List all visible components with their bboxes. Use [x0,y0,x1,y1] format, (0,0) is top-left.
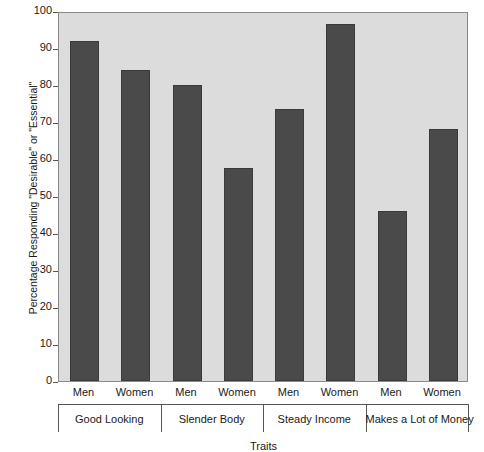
bar [224,168,253,381]
bar [275,109,304,381]
y-tick-label: 0 [24,375,52,386]
y-tick-label: 50 [24,190,52,201]
x-tick-label-gender: Women [412,386,472,398]
y-tick-mark [53,345,58,346]
y-tick-mark [53,86,58,87]
y-tick-label: 40 [24,227,52,238]
y-tick-mark [53,308,58,309]
y-tick-label: 90 [24,42,52,53]
y-tick-mark [53,123,58,124]
bar [121,70,150,381]
group-label: Makes a Lot of Money [366,413,469,425]
y-tick-label: 100 [24,5,52,16]
x-axis-title: Traits [58,440,469,452]
group-label: Slender Body [161,413,264,425]
bar [326,24,355,381]
y-tick-label: 70 [24,116,52,127]
y-tick-mark [53,197,58,198]
y-tick-mark [53,234,58,235]
y-tick-mark [53,271,58,272]
y-tick-label: 20 [24,301,52,312]
y-tick-label: 30 [24,264,52,275]
y-tick-mark [53,49,58,50]
y-axis-ticks: 1009080706050403020100 [22,0,52,452]
bar-chart-figure: Percentage Responding "Desirable" or "Es… [0,0,484,452]
x-axis-area: Traits MenWomenMenWomenMenWomenMenWomenG… [58,382,469,452]
group-label: Good Looking [58,413,161,425]
bar [70,41,99,381]
y-tick-mark [53,382,58,383]
y-tick-label: 80 [24,79,52,90]
bar [173,85,202,381]
group-label: Steady Income [263,413,366,425]
y-tick-mark [53,160,58,161]
y-tick-label: 60 [24,153,52,164]
y-tick-label: 10 [24,338,52,349]
plot-area [58,12,468,382]
y-tick-mark [53,12,58,13]
bar [429,129,458,381]
bar [378,211,407,381]
